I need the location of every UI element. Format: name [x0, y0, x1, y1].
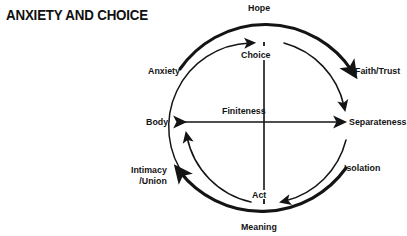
diagram-canvas: ANXIETY AND CHOICE: [0, 0, 407, 236]
node-label-intimacy-line2: /Union: [131, 175, 167, 186]
node-label-choice: Choice: [241, 49, 270, 60]
node-label-separateness: Separateness: [349, 116, 406, 127]
node-label-anxiety: Anxiety: [148, 65, 180, 76]
node-label-isolation: Isolation: [344, 162, 380, 173]
node-label-intimacy-union: Intimacy /Union: [131, 164, 167, 186]
node-label-faith-trust: Faith/Trust: [355, 65, 400, 76]
arc-act-to-body: [187, 137, 251, 202]
node-label-hope: Hope: [248, 2, 270, 13]
node-label-body: Body: [146, 116, 168, 127]
cycle-diagram-graphic: [0, 0, 407, 236]
node-label-act: Act: [252, 189, 266, 200]
arc-isolation-to-act: [285, 140, 346, 201]
node-label-intimacy-line1: Intimacy: [131, 164, 167, 175]
node-label-finiteness: Finiteness: [222, 105, 266, 116]
arc-anxiety-hope-faith-trust: [180, 24, 352, 71]
node-label-meaning: Meaning: [241, 221, 277, 232]
